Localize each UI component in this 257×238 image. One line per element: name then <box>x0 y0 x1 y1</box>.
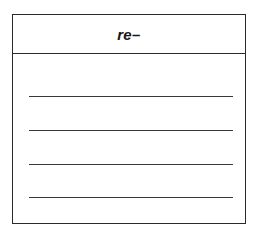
writing-area[interactable] <box>13 54 245 223</box>
writing-line[interactable] <box>29 96 233 97</box>
writing-line[interactable] <box>29 164 233 165</box>
writing-line[interactable] <box>29 130 233 131</box>
page-title: re– <box>117 27 141 42</box>
lined-answer-box: re– <box>12 14 246 224</box>
worksheet-header: re– <box>13 15 245 54</box>
writing-line[interactable] <box>29 197 233 198</box>
